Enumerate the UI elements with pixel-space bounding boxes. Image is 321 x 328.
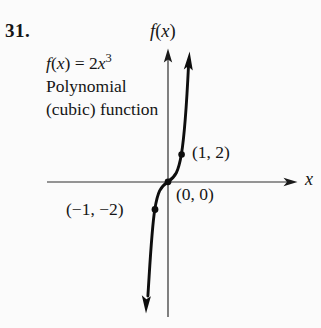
y-axis-label: f(x) [150,21,176,42]
figure-31: 31. f(x) = 2x3 Polynomial (cubic) functi… [0,0,321,328]
y-label-var-x: x [161,21,169,41]
curve-bottom-arrowhead-icon [142,295,151,313]
equation-equals-coefficient: ) = 2 [64,53,97,73]
point-dot-1-2 [178,151,185,158]
point-label-1-2: (1, 2) [192,142,230,163]
x-axis-label: x [305,169,313,190]
point-label-0-0: (0, 0) [176,184,214,205]
y-label-close-paren: ) [170,21,176,41]
point-label-neg1-neg2: (−1, −2) [66,199,124,220]
equation-exponent: 3 [105,51,111,65]
caption-equation: f(x) = 2x3 [46,47,161,75]
problem-number: 31. [5,20,30,42]
point-dot-0-0 [165,178,172,185]
caption-line-polynomial: Polynomial [46,75,161,98]
caption-line-cubic-function: (cubic) function [46,98,161,121]
figure-caption: f(x) = 2x3 Polynomial (cubic) function [46,47,161,121]
caption-cubic-function-text: (cubic) function [46,99,161,119]
point-dot-neg1-neg2 [152,206,159,213]
